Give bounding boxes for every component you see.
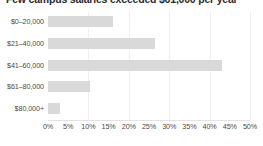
x-axis-tick-label: 50% — [243, 122, 257, 131]
y-axis-labels: $0–20,000$21–40,000$41–60,000$61–80,000$… — [0, 11, 44, 120]
x-axis-tick-label: 5% — [63, 122, 73, 131]
bar — [48, 103, 60, 114]
y-axis-tick-label: $61–80,000 — [7, 76, 44, 98]
bar — [48, 81, 90, 92]
x-axis-tick-label: 45% — [223, 122, 237, 131]
x-axis-tick-label: 15% — [102, 122, 116, 131]
x-axis-tick-label: 25% — [142, 122, 156, 131]
gridline — [250, 11, 251, 120]
bar-row — [48, 98, 250, 120]
x-axis-labels: 0%5%10%15%20%25%30%35%40%45%50% — [48, 122, 250, 136]
bar-chart: Few campus salaries exceeded $61,000 per… — [0, 0, 263, 146]
chart-title: Few campus salaries exceeded $61,000 per… — [6, 0, 263, 5]
x-axis-tick-label: 30% — [162, 122, 176, 131]
y-axis-tick-label: $0–20,000 — [11, 11, 44, 33]
bar-series — [48, 11, 250, 120]
bar — [48, 38, 155, 49]
bar-row — [48, 11, 250, 33]
bar — [48, 16, 113, 27]
bar-row — [48, 55, 250, 77]
x-axis-tick-label: 35% — [182, 122, 196, 131]
x-axis-tick-label: 40% — [203, 122, 217, 131]
y-axis-tick-label: $80,000+ — [15, 98, 44, 120]
x-axis-tick-label: 20% — [122, 122, 136, 131]
bar-row — [48, 76, 250, 98]
x-axis-line — [48, 120, 250, 121]
y-axis-tick-label: $41–60,000 — [7, 55, 44, 77]
bar-row — [48, 33, 250, 55]
x-axis-tick-label: 0% — [43, 122, 53, 131]
bar — [48, 60, 222, 71]
y-axis-tick-label: $21–40,000 — [7, 33, 44, 55]
plot-area — [48, 11, 250, 120]
x-axis-tick-label: 10% — [81, 122, 95, 131]
